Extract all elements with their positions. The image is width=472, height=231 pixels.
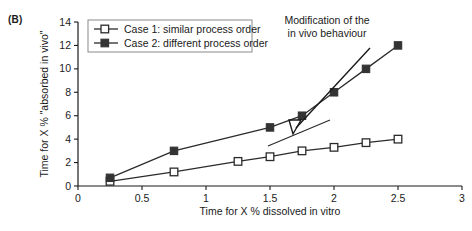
y-tick-label: 8 xyxy=(65,86,71,98)
arrow-head xyxy=(289,120,301,134)
x-axis-ticks: 00.511.522.53 xyxy=(75,186,465,204)
legend-marker-open-square xyxy=(101,25,109,33)
legend: Case 1: similar process order Case 2: di… xyxy=(88,20,268,52)
x-tick-label: 1.5 xyxy=(263,192,278,204)
data-point-marker xyxy=(298,147,306,155)
data-point-marker xyxy=(266,153,274,161)
x-tick-label: 0.5 xyxy=(135,192,150,204)
y-tick-label: 12 xyxy=(59,39,71,51)
x-axis-title: Time for X % dissolved in vitro xyxy=(200,205,341,217)
x-tick-label: 2.5 xyxy=(391,192,406,204)
annotation-line-2: in vivo behaviour xyxy=(288,27,367,39)
x-tick-label: 2 xyxy=(331,192,337,204)
chart-figure: (B) 02468101214 00.511.522.53 Time for X… xyxy=(0,0,472,231)
annotation-arrow xyxy=(289,48,370,134)
y-axis-title: Time for X % "absorbed in vivo" xyxy=(38,30,50,177)
data-point-marker xyxy=(330,144,338,152)
legend-label-case-2: Case 2: different process order xyxy=(124,37,268,49)
y-tick-label: 2 xyxy=(65,156,71,168)
data-point-marker xyxy=(362,65,369,72)
x-tick-label: 1 xyxy=(203,192,209,204)
y-tick-label: 6 xyxy=(65,109,71,121)
data-point-marker xyxy=(106,174,113,181)
data-point-marker xyxy=(394,135,402,143)
series-2 xyxy=(106,42,401,182)
data-point-marker xyxy=(394,42,401,49)
x-tick-label: 0 xyxy=(75,192,81,204)
data-point-marker xyxy=(170,168,178,176)
annotation-line-1: Modification of the xyxy=(284,14,369,26)
y-tick-label: 4 xyxy=(65,133,71,145)
data-point-marker xyxy=(266,124,273,131)
x-tick-label: 3 xyxy=(459,192,465,204)
data-point-marker xyxy=(234,158,242,166)
y-tick-label: 10 xyxy=(59,62,71,74)
plot-area: 02468101214 00.511.522.53 Time for X % d… xyxy=(0,0,472,231)
data-series-group xyxy=(106,42,402,185)
arrow-shaft xyxy=(296,48,370,128)
data-point-marker xyxy=(170,147,177,154)
legend-marker-filled-square xyxy=(101,39,109,47)
legend-label-case-1: Case 1: similar process order xyxy=(124,23,261,35)
y-tick-label: 14 xyxy=(59,16,71,28)
data-point-marker xyxy=(362,139,370,147)
y-axis-ticks: 02468101214 xyxy=(59,16,78,192)
y-tick-label: 0 xyxy=(65,180,71,192)
